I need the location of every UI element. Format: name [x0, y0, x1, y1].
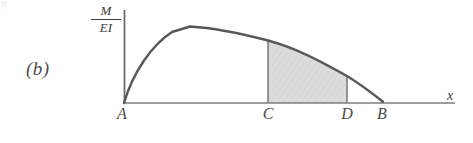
x-axis-label: x: [447, 88, 453, 104]
figure-container: (b) M EI x A C D B: [0, 0, 473, 143]
shaded-area-cd: [268, 40, 347, 103]
plot-svg: [0, 0, 473, 143]
point-label-c: C: [259, 105, 277, 123]
point-label-b: B: [373, 105, 391, 123]
point-label-a: A: [113, 105, 131, 123]
point-label-d: D: [338, 105, 356, 123]
